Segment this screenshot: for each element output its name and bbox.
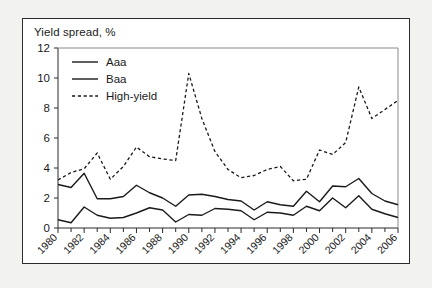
x-tick-label: 1990 [165, 231, 190, 256]
x-axis-ticks [58, 228, 398, 233]
x-tick-label: 2004 [348, 231, 373, 256]
y-tick-label: 10 [37, 72, 50, 84]
y-tick-label: 4 [44, 162, 51, 174]
x-tick-label: 1998 [270, 231, 295, 256]
x-tick-label: 1988 [139, 231, 164, 256]
x-tick-label: 2000 [296, 231, 321, 256]
y-axis-ticks: 024681012 [37, 42, 58, 234]
x-tick-label: 1996 [244, 231, 269, 256]
x-axis-labels: 1980198219841986198819901992199419961998… [34, 231, 399, 256]
x-tick-label: 2006 [374, 231, 399, 256]
y-tick-label: 2 [44, 192, 50, 204]
x-tick-label: 1994 [217, 231, 242, 256]
y-tick-label: 6 [44, 132, 50, 144]
y-tick-label: 12 [37, 42, 50, 54]
yield-spread-line-chart: 024681012 198019821984198619881990199219… [22, 18, 410, 264]
legend-label-high-yield: High-yield [106, 90, 157, 102]
x-tick-label: 1984 [87, 231, 112, 256]
x-tick-label: 1982 [61, 231, 86, 256]
y-tick-label: 8 [44, 102, 50, 114]
x-tick-label: 2002 [322, 231, 347, 256]
x-tick-label: 1980 [34, 231, 59, 256]
chart-legend: AaaBaaHigh-yield [72, 56, 157, 102]
series-line-baa [58, 173, 398, 210]
legend-label-baa: Baa [106, 73, 127, 85]
figure-page: Yield spread, % 024681012 19801982198419… [0, 0, 432, 288]
x-tick-label: 1986 [113, 231, 138, 256]
legend-label-aaa: Aaa [106, 56, 127, 68]
x-tick-label: 1992 [191, 231, 216, 256]
